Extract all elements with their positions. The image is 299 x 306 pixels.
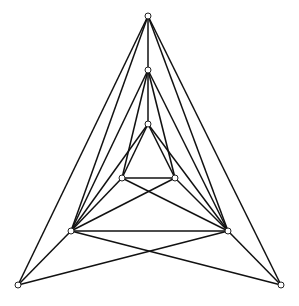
edge-D-G [122, 178, 228, 231]
edge-B-D [122, 70, 148, 178]
node-D [119, 175, 125, 181]
node-H [15, 282, 21, 288]
edge-C-E [148, 124, 175, 178]
node-E [172, 175, 178, 181]
edge-A-F [71, 16, 148, 231]
node-A [145, 13, 151, 19]
edge-G-I [228, 231, 281, 285]
node-G [225, 228, 231, 234]
graph-diagram [0, 0, 299, 306]
edge-C-D [122, 124, 148, 178]
edge-B-G [148, 70, 228, 231]
edge-F-I [71, 231, 281, 285]
node-I [278, 282, 284, 288]
edge-B-E [148, 70, 175, 178]
edge-A-G [148, 16, 228, 231]
edge-D-F [71, 178, 122, 231]
edge-E-G [175, 178, 228, 231]
node-C [145, 121, 151, 127]
node-F [68, 228, 74, 234]
edge-F-H [18, 231, 71, 285]
edges [18, 16, 281, 285]
edge-G-H [18, 231, 228, 285]
node-B [145, 67, 151, 73]
